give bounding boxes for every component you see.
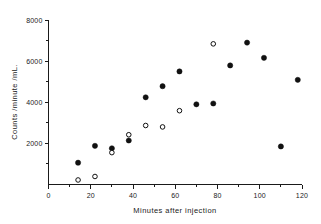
x-tick-label: 80 [213, 192, 221, 199]
figure-container: 2000400060008000 020406080100120 Minutes… [0, 0, 321, 224]
x-tick-label: 100 [254, 192, 266, 199]
y-axis-tick-labels: 2000400060008000 [26, 17, 42, 147]
data-point-filled [278, 144, 283, 149]
data-point-filled [244, 40, 249, 45]
data-point-filled [211, 101, 216, 106]
data-point-filled [92, 143, 97, 148]
data-point-filled [228, 63, 233, 68]
data-point-filled [261, 55, 266, 60]
data-point-open [110, 150, 115, 155]
x-tick-label: 40 [129, 192, 137, 199]
series-open-circles [76, 42, 216, 183]
y-tick-label: 2000 [26, 140, 42, 147]
data-points-layer [75, 40, 300, 182]
y-tick-label: 8000 [26, 17, 42, 24]
series-filled-circles [75, 40, 300, 165]
data-point-open [93, 174, 98, 179]
y-tick-label: 4000 [26, 99, 42, 106]
data-point-filled [194, 102, 199, 107]
data-point-filled [295, 77, 300, 82]
y-tick-label: 6000 [26, 58, 42, 65]
x-axis-title: Minutes after injection [133, 206, 216, 215]
x-tick-label: 0 [46, 192, 50, 199]
data-point-open [160, 125, 165, 130]
data-point-filled [160, 84, 165, 89]
data-point-filled [126, 138, 131, 143]
data-point-open [76, 178, 81, 183]
data-point-open [126, 132, 131, 137]
data-point-filled [75, 160, 80, 165]
data-point-open [177, 108, 182, 113]
x-tick-label: 20 [87, 192, 95, 199]
data-point-filled [177, 69, 182, 74]
scatter-plot: 2000400060008000 020406080100120 Minutes… [0, 0, 321, 224]
data-point-filled [143, 95, 148, 100]
x-axis-tick-labels: 020406080100120 [46, 192, 308, 199]
x-tick-label: 60 [171, 192, 179, 199]
x-tick-label: 120 [296, 192, 308, 199]
y-axis-title: Counts /minute /mL. [10, 64, 19, 140]
data-point-open [143, 123, 148, 128]
x-axis-major-ticks [49, 185, 303, 189]
data-point-open [211, 42, 216, 47]
